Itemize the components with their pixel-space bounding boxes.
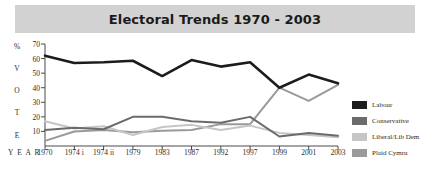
x-tick-label: 1974 i — [65, 149, 84, 157]
legend-swatch-plaid-cymru — [352, 149, 367, 157]
x-tick-label: 2003 — [331, 149, 346, 157]
legend-item-plaid-cymru[interactable]: Plaid Cymru — [352, 145, 430, 161]
x-tick-label: 1979 — [125, 149, 140, 157]
chart-title-band: Electoral Trends 1970 - 2003 — [15, 5, 415, 33]
legend-swatch-conservative — [352, 117, 367, 125]
legend-item-labour[interactable]: Labour — [352, 97, 430, 113]
series-line-labour — [45, 56, 338, 88]
legend-swatch-liberal — [352, 133, 367, 141]
legend-label-liberal: Liberal/Lib Dem — [372, 134, 419, 141]
data-series-lines — [45, 56, 338, 141]
x-tick-label: 1992 — [213, 149, 228, 157]
legend-swatch-labour — [352, 101, 367, 109]
y-tick-marks — [41, 44, 45, 131]
legend-label-conservative: Conservative — [372, 118, 409, 125]
legend-item-conservative[interactable]: Conservative — [352, 113, 430, 129]
chart-legend: Labour Conservative Liberal/Lib Dem Plai… — [352, 97, 430, 161]
x-tick-label: 1983 — [155, 149, 170, 157]
series-line-plaid-cymru — [45, 85, 338, 141]
x-tick-label: 2001 — [301, 149, 316, 157]
x-tick-label: 1970 — [38, 149, 53, 157]
x-tick-label: 1997 — [243, 149, 258, 157]
page-title: Electoral Trends 1970 - 2003 — [109, 12, 321, 27]
plot-area: % V O T E 70 60 50 40 30 20 10 Y E A R — [0, 33, 430, 179]
x-tick-label: 1999 — [272, 149, 287, 157]
x-tick-label: 1987 — [184, 149, 199, 157]
chart-figure: Electoral Trends 1970 - 2003 % V O T E 7… — [0, 0, 430, 179]
legend-item-liberal[interactable]: Liberal/Lib Dem — [352, 129, 430, 145]
legend-label-plaid-cymru: Plaid Cymru — [372, 150, 408, 157]
x-tick-label: 1974 ii — [93, 149, 114, 157]
legend-label-labour: Labour — [372, 102, 392, 109]
